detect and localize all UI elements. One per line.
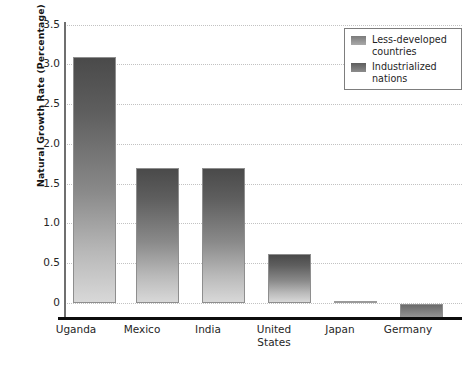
y-tick-label: 1.5 [26, 177, 60, 189]
gridline [64, 184, 462, 186]
x-tick-label-uganda: Uganda [43, 323, 109, 336]
x-tick-label-japan: Japan [307, 323, 373, 336]
legend-label-line2: countries [372, 46, 417, 57]
y-tick-label: 2.0 [26, 137, 60, 149]
legend-item-label: Less-developed countries [372, 34, 447, 57]
y-tick-label: 1.0 [26, 216, 60, 228]
legend-label-line1: Industrialized [372, 61, 437, 72]
y-axis-line [64, 22, 66, 318]
bar-mexico[interactable] [136, 168, 179, 303]
x-tick-label-germany: Germany [373, 323, 443, 336]
legend-label-line1: Less-developed [372, 34, 447, 45]
y-tick-label: 0.5 [26, 256, 60, 268]
x-tick-label-line1: Uganda [43, 323, 109, 336]
gridline [64, 25, 462, 27]
bar-united-states[interactable] [268, 254, 311, 303]
gridline [64, 104, 462, 106]
legend-swatch-icon [351, 36, 366, 45]
legend-label-line2: nations [372, 73, 407, 84]
bar-japan[interactable] [334, 301, 377, 303]
x-tick-label-india: India [175, 323, 241, 336]
bar-chart: Natural Growth Rate (Percentage) 3.5 3.0… [0, 0, 474, 366]
legend-item-industrialized-nations[interactable]: Industrialized nations [351, 61, 456, 84]
y-tick-label: 3.0 [26, 57, 60, 69]
y-axis-tick-labels: 3.5 3.0 2.5 2.0 1.5 1.0 0.5 0 [20, 0, 60, 366]
gridline [64, 223, 462, 225]
bar-india[interactable] [202, 168, 245, 303]
bar-uganda[interactable] [73, 57, 116, 303]
y-tick-label: 0 [26, 296, 60, 308]
legend-item-label: Industrialized nations [372, 61, 437, 84]
gridline [64, 144, 462, 146]
x-tick-label-line1: Japan [307, 323, 373, 336]
x-tick-label-line1: India [175, 323, 241, 336]
y-tick-label: 2.5 [26, 97, 60, 109]
x-tick-label-line1: Germany [373, 323, 443, 336]
legend-swatch-icon [351, 63, 366, 72]
x-tick-label-united-states: United States [241, 323, 307, 348]
x-tick-label-line1: Mexico [109, 323, 175, 336]
legend-item-less-developed-countries[interactable]: Less-developed countries [351, 34, 456, 57]
x-tick-label-line1: United [241, 323, 307, 336]
x-tick-label-mexico: Mexico [109, 323, 175, 336]
x-axis-line [58, 317, 462, 320]
x-tick-label-line2: States [241, 336, 307, 349]
y-tick-label: 3.5 [26, 18, 60, 30]
gridline [64, 263, 462, 265]
legend: Less-developed countries Industrialized … [344, 28, 462, 90]
